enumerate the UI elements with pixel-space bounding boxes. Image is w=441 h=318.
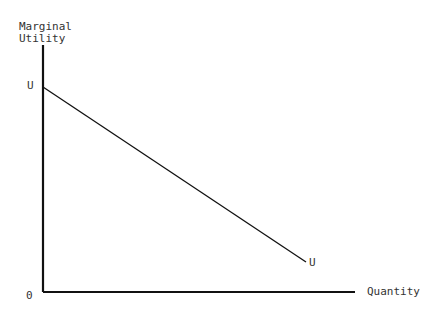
chart-canvas [0,0,441,318]
line-end-label: U [309,256,316,269]
x-axis-label: Quantity [367,285,420,298]
origin-label: 0 [26,289,33,302]
y-axis-label-line2: Utility [19,32,65,45]
marginal-utility-line [43,87,306,262]
line-start-label: U [27,79,34,92]
